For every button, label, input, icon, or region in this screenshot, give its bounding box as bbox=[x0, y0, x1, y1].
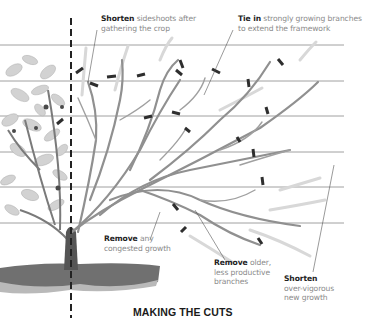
annotation-text: sideshoots after bbox=[137, 14, 196, 23]
annotation-shorten-sideshoots: Shorten sideshoots after gathering the c… bbox=[101, 14, 196, 33]
annotation-verb: Shorten bbox=[101, 14, 134, 23]
annotation-text: strongly growing branches bbox=[263, 14, 362, 23]
annotation-shorten-vigorous: Shorten over-vigorous new growth bbox=[284, 274, 334, 303]
annotation-text: older, bbox=[250, 258, 271, 267]
annotation-verb: Tie in bbox=[238, 14, 261, 23]
annotation-text: to extend the framework bbox=[238, 24, 330, 33]
annotation-text: over-vigorous bbox=[284, 284, 334, 293]
annotation-text: congested growth bbox=[104, 244, 171, 253]
soil-bed bbox=[0, 263, 160, 293]
annotation-text: new growth bbox=[284, 293, 328, 302]
annotation-text: less productive bbox=[214, 268, 270, 277]
annotation-text: gathering the crop bbox=[101, 24, 170, 33]
annotation-remove-congested: Remove any congested growth bbox=[104, 234, 171, 253]
annotation-verb: Remove bbox=[104, 234, 138, 243]
annotation-verb: Remove bbox=[214, 258, 248, 267]
branches-right bbox=[72, 38, 325, 262]
annotation-remove-older: Remove older, less productive branches bbox=[214, 258, 271, 287]
annotation-verb: Shorten bbox=[284, 274, 317, 283]
annotation-text: branches bbox=[214, 277, 248, 286]
annotation-tie-in: Tie in strongly growing branches to exte… bbox=[238, 14, 362, 33]
diagram-title: MAKING THE CUTS bbox=[133, 306, 233, 318]
annotation-text: any bbox=[140, 234, 154, 243]
